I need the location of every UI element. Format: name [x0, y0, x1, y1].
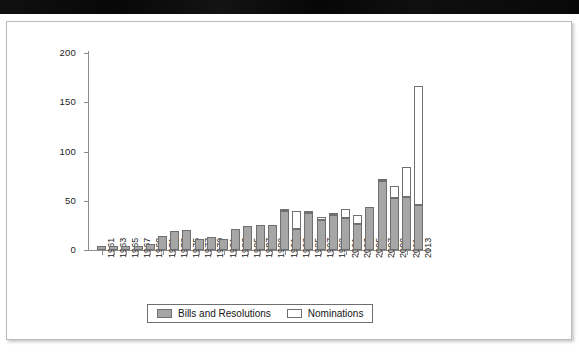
bar-segment-nominations — [390, 186, 399, 198]
bar-segment-bills-and-resolutions — [109, 246, 118, 250]
bar-chart-plot-area: 0501001502001961196319651967196919711973… — [7, 22, 573, 341]
x-axis-tick-label-2013: 2013 — [423, 238, 433, 258]
bar-1963[interactable] — [109, 246, 118, 250]
bar-2011[interactable] — [402, 167, 411, 250]
x-axis-tick-mark — [358, 251, 359, 255]
legend-item-nominations[interactable]: Nominations — [287, 308, 364, 319]
x-axis-tick-mark — [211, 251, 212, 255]
bar-segment-bills-and-resolutions — [231, 229, 240, 250]
bar-segment-bills-and-resolutions — [353, 224, 362, 250]
x-axis-tick-mark — [272, 251, 273, 255]
y-axis-tick-label: 0 — [48, 244, 76, 255]
bar-1983[interactable] — [231, 229, 240, 250]
bar-1961[interactable] — [97, 246, 106, 250]
y-axis-tick-mark — [84, 152, 88, 153]
bar-segment-bills-and-resolutions — [219, 239, 228, 250]
bar-segment-nominations — [378, 179, 387, 181]
chart-card: 0501001502001961196319651967196919711973… — [6, 21, 572, 340]
x-axis-tick-mark — [236, 251, 237, 255]
bar-segment-bills-and-resolutions — [292, 229, 301, 250]
x-axis-tick-mark — [224, 251, 225, 255]
top-black-band — [0, 0, 579, 14]
legend-label: Bills and Resolutions — [178, 308, 271, 319]
x-axis-tick-mark — [150, 251, 151, 255]
y-axis-tick-mark — [84, 53, 88, 54]
x-axis-tick-mark — [175, 251, 176, 255]
y-axis-tick-mark — [84, 250, 88, 251]
bar-segment-bills-and-resolutions — [402, 197, 411, 250]
x-axis-tick-mark — [163, 251, 164, 255]
bar-segment-bills-and-resolutions — [97, 246, 106, 250]
bar-segment-nominations — [341, 209, 350, 219]
bar-segment-nominations — [353, 215, 362, 225]
bar-segment-nominations — [317, 217, 326, 221]
x-axis-tick-mark — [346, 251, 347, 255]
bar-segment-nominations — [402, 167, 411, 197]
bar-1971[interactable] — [158, 236, 167, 250]
legend-item-bills-and-resolutions[interactable]: Bills and Resolutions — [157, 308, 271, 319]
x-axis-tick-mark — [260, 251, 261, 255]
x-axis-tick-mark — [370, 251, 371, 255]
legend-swatch-gray-icon — [157, 309, 172, 318]
bar-segment-nominations — [414, 86, 423, 205]
bar-1981[interactable] — [219, 239, 228, 250]
y-axis-line — [88, 51, 89, 250]
x-axis-tick-mark — [297, 251, 298, 255]
y-axis-tick-mark — [84, 201, 88, 202]
bar-2001[interactable] — [341, 209, 350, 250]
x-axis-tick-mark — [419, 251, 420, 255]
legend-swatch-white-icon — [287, 309, 302, 318]
x-axis-tick-mark — [248, 251, 249, 255]
legend-label: Nominations — [308, 308, 364, 319]
bar-segment-bills-and-resolutions — [280, 211, 289, 250]
x-axis-tick-mark — [382, 251, 383, 255]
x-axis-tick-mark — [321, 251, 322, 255]
bar-segment-nominations — [280, 209, 289, 211]
y-axis-tick-label: 50 — [48, 195, 76, 206]
x-axis-tick-mark — [138, 251, 139, 255]
bar-2003[interactable] — [353, 215, 362, 250]
bar-segment-nominations — [304, 211, 313, 213]
bar-1991[interactable] — [280, 210, 289, 250]
x-axis-tick-mark — [126, 251, 127, 255]
y-axis-tick-label: 200 — [48, 47, 76, 58]
y-axis-tick-label: 150 — [48, 96, 76, 107]
bar-1993[interactable] — [292, 211, 301, 250]
x-axis-tick-mark — [102, 251, 103, 255]
chart-legend: Bills and ResolutionsNominations — [147, 304, 373, 323]
bar-segment-bills-and-resolutions — [170, 231, 179, 250]
bar-1973[interactable] — [170, 231, 179, 250]
x-axis-tick-mark — [309, 251, 310, 255]
bar-segment-bills-and-resolutions — [158, 236, 167, 250]
bar-2013[interactable] — [414, 86, 423, 250]
screenshot-root: 0501001502001961196319651967196919711973… — [0, 0, 579, 352]
x-axis-tick-mark — [199, 251, 200, 255]
x-axis-tick-mark — [285, 251, 286, 255]
bar-segment-nominations — [329, 213, 338, 215]
bar-segment-nominations — [292, 211, 301, 230]
top-band-texture — [0, 0, 579, 14]
x-axis-tick-mark — [333, 251, 334, 255]
x-axis-tick-mark — [114, 251, 115, 255]
y-axis-tick-mark — [84, 102, 88, 103]
x-axis-tick-mark — [394, 251, 395, 255]
x-axis-tick-mark — [187, 251, 188, 255]
x-axis-tick-mark — [407, 251, 408, 255]
bar-segment-bills-and-resolutions — [341, 218, 350, 250]
bar-segment-bills-and-resolutions — [414, 205, 423, 250]
y-axis-tick-label: 100 — [48, 146, 76, 157]
